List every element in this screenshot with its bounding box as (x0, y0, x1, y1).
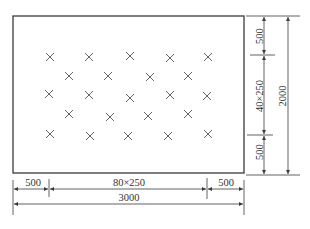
cross-mark-icon (144, 112, 152, 120)
dim-bottom-total-label: 3000 (119, 192, 140, 203)
cross-mark-icon (124, 132, 132, 140)
technical-drawing: 500 40×250 500 2000 500 80×250 500 3000 (0, 0, 310, 229)
cross-mark-icon (65, 110, 73, 118)
dim-right-middle-label: 40×250 (254, 80, 265, 112)
cross-mark-icon (203, 92, 211, 100)
dim-bottom-middle-label: 80×250 (113, 177, 145, 188)
cross-mark-icon (46, 53, 54, 61)
cross-mark-icon (126, 52, 134, 60)
cross-mark-icon (65, 72, 73, 80)
dim-bottom-right-label: 500 (218, 177, 234, 188)
cross-mark-icon (126, 94, 134, 102)
cross-mark-icon (164, 132, 172, 140)
dim-bottom-left-label: 500 (25, 177, 41, 188)
cross-mark-icon (45, 90, 53, 98)
drawing-canvas: 500 40×250 500 2000 500 80×250 500 3000 (0, 0, 310, 229)
cross-mark-icon (106, 113, 114, 121)
cross-mark-icon (204, 130, 212, 138)
cross-mark-icon (204, 53, 212, 61)
dim-right-top-label: 500 (254, 28, 265, 44)
cross-mark-icon (166, 91, 174, 99)
dim-right-total-label: 2000 (277, 86, 288, 107)
cross-mark-icon (85, 91, 93, 99)
cross-mark-icon (85, 53, 93, 61)
cross-mark-icon (184, 110, 192, 118)
cross-mark-icon (146, 73, 154, 81)
cross-mark-icon (46, 130, 54, 138)
cross-marks (45, 52, 212, 140)
cross-mark-icon (184, 72, 192, 80)
plate-outline (13, 16, 244, 173)
dim-right-bottom-label: 500 (254, 144, 265, 160)
cross-mark-icon (104, 72, 112, 80)
cross-mark-icon (166, 54, 174, 62)
cross-mark-icon (86, 132, 94, 140)
